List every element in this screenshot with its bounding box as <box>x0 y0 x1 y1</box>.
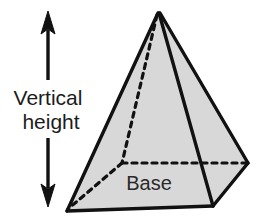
base-label: Base <box>126 172 172 194</box>
vertical-height-label-line2: height <box>22 110 79 133</box>
pyramid-figure-canvas: Vertical height Base <box>0 0 271 219</box>
pyramid-diagram: Vertical height Base <box>0 0 271 219</box>
vertical-height-label-line1: Vertical <box>14 86 83 109</box>
